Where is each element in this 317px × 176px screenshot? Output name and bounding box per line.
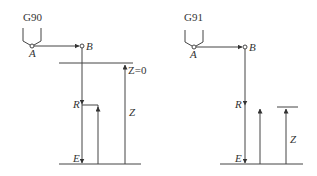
g91-diagram: G91 A B R E Z <box>184 11 303 164</box>
r-offset-line <box>82 105 98 108</box>
point-b-marker <box>243 45 247 49</box>
z-zero-label: Z=0 <box>128 64 147 76</box>
g91-label: G91 <box>184 11 203 23</box>
g90-label: G90 <box>23 11 42 23</box>
point-b-marker <box>80 44 84 48</box>
g90-diagram: G90 A B R E Z=0 Z <box>23 11 147 164</box>
tool-holder-icon <box>23 28 41 45</box>
level-e-label: E <box>72 152 80 164</box>
level-r-label: R <box>234 98 242 110</box>
z-label: Z <box>290 133 297 145</box>
point-b-label: B <box>249 41 256 53</box>
drilling-cycle-diagram: G90 A B R E Z=0 Z G91 A B R <box>0 0 317 176</box>
point-a-label: A <box>28 47 36 59</box>
level-e-label: E <box>234 152 242 164</box>
z-label: Z <box>129 106 136 118</box>
level-r-label: R <box>72 98 80 110</box>
point-b-label: B <box>86 40 93 52</box>
point-a-label: A <box>189 48 197 60</box>
tool-holder-icon <box>185 30 203 46</box>
